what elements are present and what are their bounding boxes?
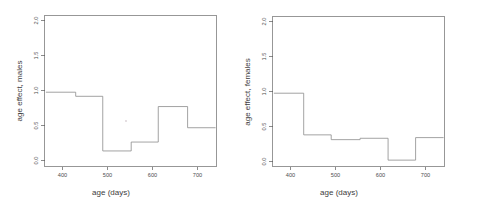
y-tick-label-1-0: 1.0 <box>261 88 267 96</box>
y-tick-label-1-5: 1.5 <box>33 52 39 60</box>
x-axis-females: 400 500 600 700 <box>286 167 430 179</box>
x-tick-label-700: 700 <box>421 172 430 178</box>
plot-svg-females: 2.0 1.5 1.0 0.5 0.0 400 500 600 700 age … <box>240 0 477 206</box>
y-tick-label-0-0: 0.0 <box>33 157 39 165</box>
figure-canvas: 2.0 1.5 1.0 0.5 0.0 400 500 600 700 <box>0 0 477 206</box>
y-axis-males: 2.0 1.5 1.0 0.5 0.0 <box>33 17 44 165</box>
x-tick-label-600: 600 <box>148 172 157 178</box>
y-tick-label-1-5: 1.5 <box>261 53 267 61</box>
y-tick-label-0-5: 0.5 <box>261 123 267 131</box>
x-axis-males: 400 500 600 700 <box>58 167 202 179</box>
y-axis-females: 2.0 1.5 1.0 0.5 0.0 <box>261 18 272 166</box>
y-tick-label-2-0: 2.0 <box>33 17 39 25</box>
plot-frame-females <box>273 17 445 167</box>
plot-panel-males: 2.0 1.5 1.0 0.5 0.0 400 500 600 700 <box>0 0 240 206</box>
y-tick-label-0-0: 0.0 <box>261 158 267 166</box>
print-artifact-dot <box>125 120 127 122</box>
x-tick-label-400: 400 <box>286 172 295 178</box>
x-tick-label-500: 500 <box>331 172 340 178</box>
plot-svg-males: 2.0 1.5 1.0 0.5 0.0 400 500 600 700 <box>0 0 240 206</box>
x-tick-label-700: 700 <box>193 172 202 178</box>
plot-frame-males <box>45 16 217 167</box>
x-axis-title-females: age (days) <box>320 188 358 197</box>
y-axis-title-females: age effect, females <box>243 58 252 125</box>
x-axis-title-males: age (days) <box>92 188 130 197</box>
x-tick-label-600: 600 <box>376 172 385 178</box>
y-tick-label-2-0: 2.0 <box>261 18 267 26</box>
step-curve-females <box>274 93 444 160</box>
step-curve-males <box>46 92 216 151</box>
x-tick-label-500: 500 <box>103 172 112 178</box>
y-tick-label-0-5: 0.5 <box>33 122 39 130</box>
y-axis-title-males: age effect, males <box>15 61 24 122</box>
plot-panel-females: 2.0 1.5 1.0 0.5 0.0 400 500 600 700 age … <box>240 0 477 206</box>
y-tick-label-1-0: 1.0 <box>33 87 39 95</box>
x-tick-label-400: 400 <box>58 172 67 178</box>
